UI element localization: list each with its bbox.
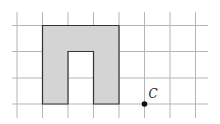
grid-diagram: C: [0, 0, 220, 124]
shaded-arch-shape: [43, 26, 120, 105]
point-c-label: C: [149, 87, 158, 101]
point-c-dot: [142, 101, 148, 107]
